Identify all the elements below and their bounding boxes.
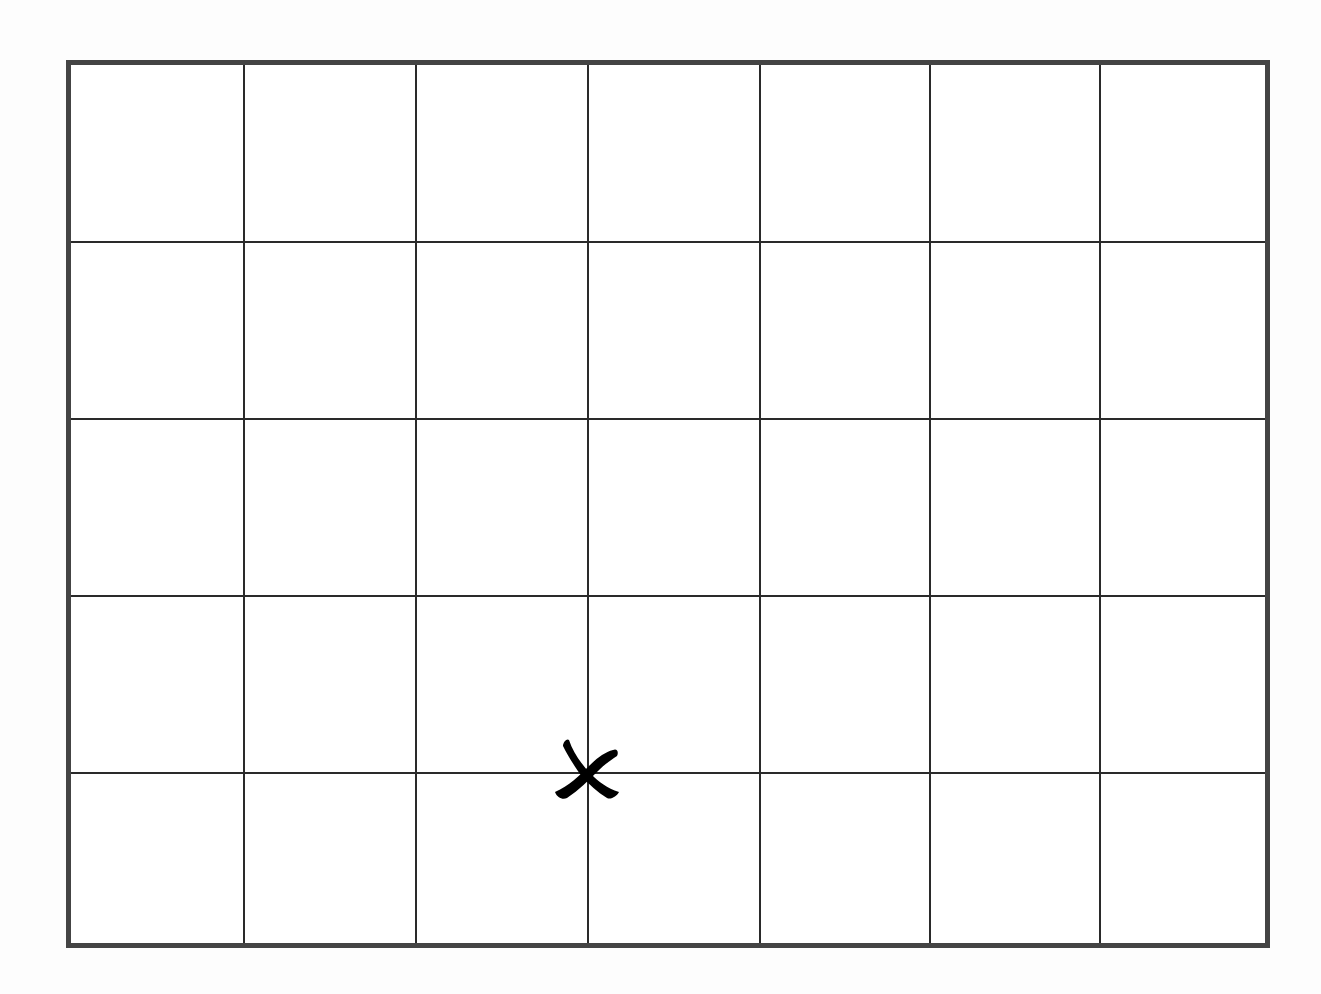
grid-cell-r3-c6[interactable] (929, 418, 1099, 595)
game-canvas (0, 0, 1321, 994)
grid-cell-r2-c1[interactable] (71, 241, 243, 418)
grid-cell-r5-c6[interactable] (929, 772, 1099, 948)
grid-line-horizontal (71, 595, 1265, 597)
grid-cell-r5-c5[interactable] (759, 772, 929, 948)
grid-line-horizontal (71, 241, 1265, 243)
grid-cell-r1-c4[interactable] (587, 65, 759, 241)
grid-cell-r3-c7[interactable] (1099, 418, 1270, 595)
grid-cell-r4-c4[interactable] (587, 595, 759, 772)
grid-cell-r4-c1[interactable] (71, 595, 243, 772)
grid-line-vertical (415, 65, 417, 943)
grid-cell-r5-c4[interactable] (587, 772, 759, 948)
grid-cell-r5-c2[interactable] (243, 772, 415, 948)
grid-line-vertical (759, 65, 761, 943)
grid-cell-r2-c3[interactable] (415, 241, 587, 418)
grid-cell-r1-c6[interactable] (929, 65, 1099, 241)
grid-cell-r4-c2[interactable] (243, 595, 415, 772)
grid-cell-r3-c3[interactable] (415, 418, 587, 595)
grid-cell-r5-c1[interactable] (71, 772, 243, 948)
grid-cell-r3-c2[interactable] (243, 418, 415, 595)
grid-cell-r4-c5[interactable] (759, 595, 929, 772)
grid-cell-r2-c4[interactable] (587, 241, 759, 418)
grid-cell-r3-c5[interactable] (759, 418, 929, 595)
grid-cell-r4-c6[interactable] (929, 595, 1099, 772)
grid-cell-r2-c5[interactable] (759, 241, 929, 418)
grid-cell-r3-c4[interactable] (587, 418, 759, 595)
grid-cell-r1-c7[interactable] (1099, 65, 1270, 241)
grid-line-horizontal (71, 418, 1265, 420)
grid-cell-r2-c6[interactable] (929, 241, 1099, 418)
grid-cell-r1-c2[interactable] (243, 65, 415, 241)
grid-cell-r5-c3[interactable] (415, 772, 587, 948)
grid-line-vertical (929, 65, 931, 943)
grid-cell-r1-c1[interactable] (71, 65, 243, 241)
grid-line-vertical (587, 65, 589, 943)
grid-cell-r5-c7[interactable] (1099, 772, 1270, 948)
grid-cell-r1-c5[interactable] (759, 65, 929, 241)
grid-line-horizontal (71, 772, 1265, 774)
grid-cell-r4-c3[interactable] (415, 595, 587, 772)
grid-line-vertical (1099, 65, 1101, 943)
grid-line-vertical (243, 65, 245, 943)
grid-board[interactable] (66, 60, 1270, 948)
grid-cell-r4-c7[interactable] (1099, 595, 1270, 772)
grid-cell-r2-c7[interactable] (1099, 241, 1270, 418)
grid-cell-r2-c2[interactable] (243, 241, 415, 418)
grid-cell-r3-c1[interactable] (71, 418, 243, 595)
grid-cell-r1-c3[interactable] (415, 65, 587, 241)
